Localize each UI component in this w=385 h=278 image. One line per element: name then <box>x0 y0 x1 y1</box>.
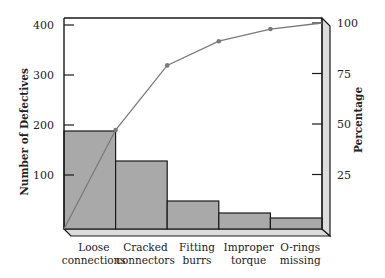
category-label: missing <box>280 254 321 266</box>
y-tick-label: 300 <box>33 69 54 82</box>
y-tick-label: 100 <box>33 169 54 182</box>
category-label: Loose <box>78 241 109 253</box>
category-label: O-rings <box>280 241 320 253</box>
y-right-tick-label: 50 <box>337 118 351 131</box>
category-label: Fitting <box>179 241 215 253</box>
bar <box>219 213 271 229</box>
category-label: connectors <box>116 254 175 266</box>
right-wall-panel <box>322 18 330 236</box>
y-tick-label: 400 <box>33 19 54 32</box>
cumulative-point <box>217 39 222 44</box>
floor-panel <box>64 229 330 236</box>
pareto-chart: 100200300400 255075100 LooseconnectionsC… <box>0 0 385 278</box>
cumulative-point <box>113 128 118 133</box>
bar <box>116 161 168 229</box>
y-right-tick-label: 25 <box>337 169 351 182</box>
y-tick-label: 200 <box>33 119 54 132</box>
bars <box>64 131 322 229</box>
cumulative-point <box>268 27 273 32</box>
y-right-tick-label: 100 <box>337 17 358 30</box>
cumulative-point <box>165 63 170 68</box>
bar <box>270 218 322 229</box>
category-label: Improper <box>224 241 275 253</box>
category-label: burrs <box>183 254 212 266</box>
category-labels: LooseconnectionsCrackedconnectorsFitting… <box>62 241 321 266</box>
y-axis-title: Number of Defectives <box>18 68 30 196</box>
y-right-tick-label: 75 <box>337 68 351 81</box>
category-label: torque <box>231 254 266 266</box>
category-label: Cracked <box>123 241 168 253</box>
y-axis-right-title: Percentage <box>352 87 364 154</box>
bar <box>167 201 219 229</box>
